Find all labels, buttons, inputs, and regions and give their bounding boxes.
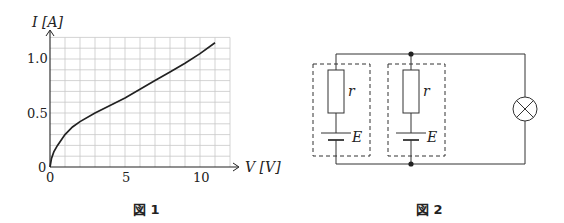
figure-stage: I [A] V [V] 0 0.5 1.0 0 5 10 <box>0 0 564 223</box>
resistor-right <box>403 70 419 113</box>
resistor-left <box>328 70 344 113</box>
y-tick-1-0: 1.0 <box>27 51 48 66</box>
x-tick-0: 0 <box>46 170 54 185</box>
x-tick-5: 5 <box>122 170 130 185</box>
junction-dot-top <box>408 51 413 56</box>
circuit-labels: r r E E <box>348 83 437 145</box>
lamp-icon <box>513 97 537 121</box>
figure1-caption: 図 1 <box>133 199 160 218</box>
battery-cell-left <box>313 54 370 164</box>
circuit-diagram <box>313 51 537 166</box>
y-axis-label: I [A] <box>31 14 64 30</box>
resistor-label-left: r <box>348 83 356 99</box>
x-tick-10: 10 <box>193 170 210 185</box>
battery-label-left: E <box>351 129 362 145</box>
battery-cell-right <box>388 54 445 164</box>
battery-label-right: E <box>426 129 437 145</box>
resistor-label-right: r <box>423 83 431 99</box>
junction-dot-bottom <box>408 161 413 166</box>
y-tick-0-5: 0.5 <box>27 106 48 121</box>
x-axis-label: V [V] <box>245 159 281 175</box>
figure2-caption: 図 2 <box>416 199 443 218</box>
iv-graph: I [A] V [V] 0 0.5 1.0 0 5 10 <box>27 14 281 185</box>
graph-grid <box>50 37 230 167</box>
iv-curve <box>50 43 215 167</box>
